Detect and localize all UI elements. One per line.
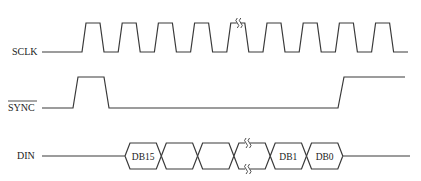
din-bus: DB15DB1DB0 <box>42 138 410 174</box>
din-bit-cell <box>161 143 197 169</box>
timing-diagram: SCLK SYNC DIN DB15DB1DB0 <box>0 0 421 181</box>
din-bit-label: DB1 <box>279 152 297 162</box>
sclk-waveform <box>42 23 408 52</box>
signal-label-sync: SYNC <box>8 102 35 113</box>
din-bit-cell <box>198 143 234 169</box>
signal-label-sclk: SCLK <box>12 46 38 57</box>
din-bit-cell <box>234 143 270 169</box>
din-bit-label: DB15 <box>132 152 155 162</box>
signal-label-din: DIN <box>17 150 35 161</box>
sclk-break-mark <box>236 18 243 28</box>
sync-waveform <box>42 77 405 108</box>
din-bit-label: DB0 <box>316 152 334 162</box>
